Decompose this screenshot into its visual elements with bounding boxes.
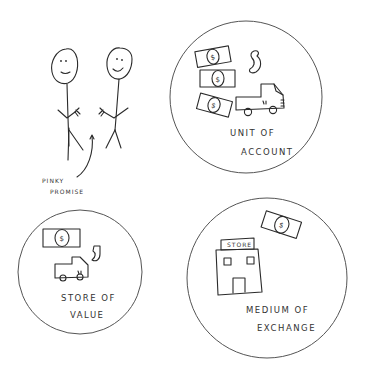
label-account: ACCOUNT — [241, 147, 294, 157]
truck-icon — [55, 257, 88, 281]
shrimp-icon — [249, 51, 260, 73]
circle-unit-of-account: $ $ $ UNIT OF ACCOUNT — [170, 21, 322, 173]
dollar-bill-icon: $ — [261, 211, 301, 239]
svg-text:$: $ — [278, 221, 285, 230]
store-sign: STORE — [227, 241, 252, 248]
dollar-bill-icon: $ — [200, 70, 235, 87]
shrimp-icon — [92, 246, 100, 261]
circle-store-of-value: $ STORE OF VALUE — [18, 210, 142, 334]
dollar-bill-icon: $ — [196, 93, 232, 117]
diagram-canvas: PINKY PROMISE $ $ $ — [0, 0, 366, 377]
stick-figure-right — [99, 48, 132, 148]
label-unit-of: UNIT OF — [230, 128, 275, 138]
store-building-icon: STORE — [216, 238, 262, 295]
label-exchange: EXCHANGE — [257, 323, 316, 333]
svg-text:$: $ — [210, 53, 216, 62]
dollar-bill-icon: $ — [43, 229, 80, 247]
caption-promise: PROMISE — [50, 188, 84, 195]
dollar-bill-icon: $ — [195, 46, 231, 68]
label-value: VALUE — [70, 310, 105, 320]
truck-icon — [236, 84, 284, 116]
caption-pinky: PINKY — [42, 177, 64, 184]
svg-text:$: $ — [60, 235, 64, 243]
label-store-of: STORE OF — [61, 293, 116, 303]
arrow-icon — [77, 135, 94, 177]
svg-text:$: $ — [216, 76, 220, 84]
svg-text:$: $ — [210, 101, 216, 110]
stick-figure-left — [52, 49, 83, 160]
label-medium-of: MEDIUM OF — [246, 305, 309, 315]
circle-medium-of-exchange: $ STORE MEDIUM OF EXCHANGE — [187, 198, 347, 358]
